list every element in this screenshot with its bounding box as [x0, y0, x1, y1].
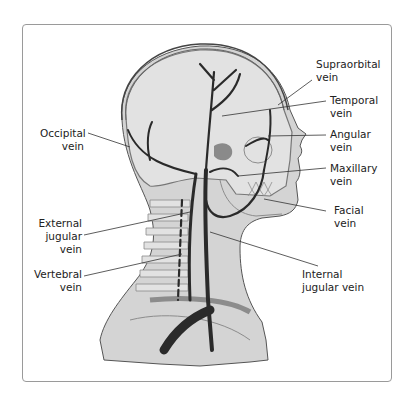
label-line: vein [36, 243, 82, 256]
label-internal-jugular-vein: Internal jugular vein [302, 268, 364, 294]
label-line: vein [330, 175, 377, 188]
label-line: vein [30, 281, 82, 294]
label-line: Maxillary [330, 162, 377, 175]
label-line: vein [334, 217, 364, 230]
label-line: vein [316, 71, 381, 84]
label-line: Angular [330, 128, 371, 141]
label-line: External [36, 217, 82, 230]
label-line: vein [330, 141, 371, 154]
label-line: Supraorbital [316, 58, 381, 71]
label-external-jugular-vein: External jugular vein [36, 217, 82, 256]
label-temporal-vein: Temporal vein [330, 94, 378, 120]
label-maxillary-vein: Maxillary vein [330, 162, 377, 188]
label-line: vein [40, 140, 84, 153]
label-facial-vein: Facial vein [334, 204, 364, 230]
label-supraorbital-vein: Supraorbital vein [316, 58, 381, 84]
label-line: Occipital [40, 127, 84, 140]
label-line: jugular vein [302, 281, 364, 294]
label-line: Temporal [330, 94, 378, 107]
label-angular-vein: Angular vein [330, 128, 371, 154]
label-line: Internal [302, 268, 364, 281]
label-line: Facial [334, 204, 364, 217]
label-occipital-vein: Occipital vein [40, 127, 84, 153]
label-line: vein [330, 107, 378, 120]
label-vertebral-vein: Vertebral vein [30, 268, 82, 294]
gland [214, 143, 232, 160]
label-line: jugular [36, 230, 82, 243]
label-line: Vertebral [30, 268, 82, 281]
